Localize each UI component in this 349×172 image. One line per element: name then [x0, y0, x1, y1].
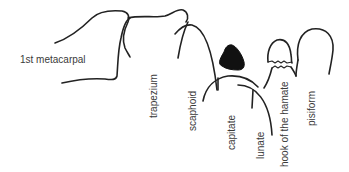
label-first-metacarpal: 1st metacarpal — [20, 55, 86, 65]
carpal-bones-diagram: 1st metacarpal trapezium scaphoid capita… — [0, 0, 349, 172]
hamate-fracture-line-lower — [272, 66, 291, 68]
label-capitate: capitate — [227, 115, 237, 150]
hook-of-hamate-outline — [268, 40, 292, 63]
pisiform-left-line — [296, 60, 298, 76]
bone-outlines — [0, 0, 349, 172]
label-pisiform: pisiform — [307, 91, 317, 126]
label-hook-of-hamate: hook of the hamate — [280, 81, 290, 167]
label-scaphoid: scaphoid — [188, 91, 198, 131]
first-metacarpal-outline-lower — [62, 18, 130, 83]
trapezium-outline — [128, 10, 188, 22]
lunate-inner-line — [252, 90, 253, 108]
bone-fragment-filled-shape — [220, 45, 245, 70]
hamate-fracture-line — [268, 61, 292, 63]
label-trapezium: trapezium — [149, 74, 159, 118]
scaphoid-outline — [175, 25, 217, 90]
lunate-outline — [238, 85, 272, 135]
label-lunate: lunate — [256, 132, 266, 159]
pisiform-outline — [298, 29, 334, 74]
hamate-body-line-left — [264, 68, 272, 88]
